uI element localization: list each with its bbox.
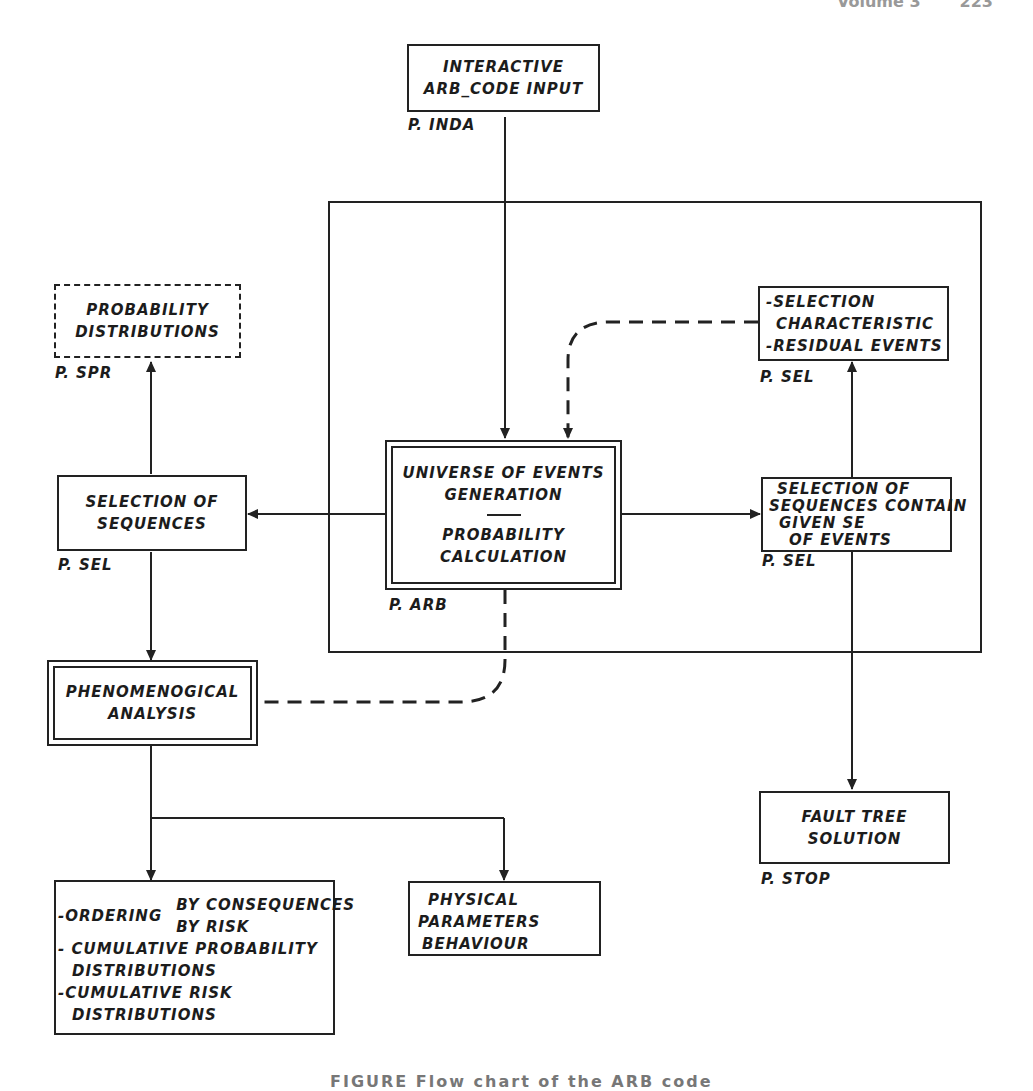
node-text: CALCULATION [440, 546, 567, 568]
node-separator [487, 514, 521, 516]
node-text: ARB_CODE INPUT [424, 78, 583, 100]
node-text: GENERATION [444, 484, 562, 506]
edge-universe-to-phenomenological [258, 590, 505, 702]
node-text: - CUMULATIVE PROBABILITY [58, 938, 329, 960]
node-text: SOLUTION [808, 828, 902, 850]
node-phenomenological-analysis[interactable]: PHENOMENOGICAL ANALYSIS [47, 660, 258, 746]
program-label-sel-given-set: P. SEL [762, 552, 817, 570]
node-text: UNIVERSE OF EVENTS [403, 462, 605, 484]
ordering-option: BY RISK [176, 916, 355, 938]
node-text: -CUMULATIVE RISK [58, 982, 329, 1004]
node-text: PROBABILITY [442, 524, 565, 546]
node-text: SEQUENCES [97, 513, 207, 535]
program-label-sel-characteristic: P. SEL [760, 368, 815, 386]
node-text: PHYSICAL [418, 889, 591, 911]
node-text: PHENOMENOGICAL [66, 681, 240, 703]
node-selection-of-sequences[interactable]: SELECTION OF SEQUENCES [57, 475, 247, 551]
node-text: INTERACTIVE [443, 56, 564, 78]
node-selection-characteristic[interactable]: -SELECTION CHARACTERISTIC -RESIDUAL EVEN… [758, 286, 949, 361]
node-text: GIVEN SE [769, 515, 950, 532]
ordering-row: -ORDERING BY CONSEQUENCES BY RISK [58, 894, 329, 938]
node-text: OF EVENTS [769, 532, 950, 549]
node-universe-of-events[interactable]: UNIVERSE OF EVENTS GENERATION PROBABILIT… [385, 440, 622, 590]
node-text: PARAMETERS [418, 911, 591, 933]
node-text: -SELECTION [766, 291, 947, 313]
node-probability-distributions[interactable]: PROBABILITY DISTRIBUTIONS [54, 284, 241, 358]
node-interactive-input[interactable]: INTERACTIVE ARB_CODE INPUT [407, 44, 600, 112]
node-text: ANALYSIS [108, 703, 197, 725]
node-fault-tree-solution[interactable]: FAULT TREE SOLUTION [759, 791, 950, 864]
node-text: DISTRIBUTIONS [58, 960, 329, 982]
ordering-label: -ORDERING [58, 905, 162, 927]
figure-caption: FIGURE Flow chart of the ARB code [330, 1072, 713, 1091]
node-ordering[interactable]: -ORDERING BY CONSEQUENCES BY RISK - CUMU… [54, 880, 335, 1035]
node-text: SEQUENCES CONTAIN [769, 498, 950, 515]
program-label-stop: P. STOP [761, 870, 831, 888]
program-label-spr: P. SPR [55, 364, 112, 382]
node-text: PROBABILITY [86, 299, 209, 321]
program-label-arb: P. ARB [389, 596, 448, 614]
edge-characteristic-to-universe [568, 322, 758, 438]
node-text: CHARACTERISTIC [766, 313, 947, 335]
node-text: BEHAVIOUR [418, 933, 591, 955]
node-text: FAULT TREE [801, 806, 907, 828]
ordering-options: BY CONSEQUENCES BY RISK [176, 894, 355, 938]
ordering-option: BY CONSEQUENCES [176, 894, 355, 916]
node-text: -RESIDUAL EVENTS [766, 335, 947, 357]
node-text: DISTRIBUTIONS [58, 1004, 329, 1026]
node-text: SELECTION OF [85, 491, 218, 513]
node-text: SELECTION OF [769, 481, 950, 498]
node-physical-parameters[interactable]: PHYSICAL PARAMETERS BEHAVIOUR [408, 881, 601, 956]
program-label-sel-sequences: P. SEL [58, 556, 113, 574]
program-label-inda: P. INDA [408, 116, 475, 134]
node-text: DISTRIBUTIONS [75, 321, 220, 343]
node-selection-given-set[interactable]: SELECTION OF SEQUENCES CONTAIN GIVEN SE … [761, 477, 952, 552]
